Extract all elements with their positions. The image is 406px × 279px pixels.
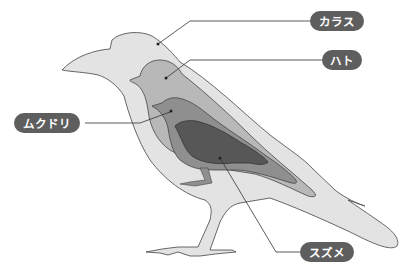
label-starling: ムクドリ — [14, 113, 80, 133]
label-sparrow: スズメ — [300, 242, 354, 262]
bird-silhouettes — [0, 0, 406, 279]
label-pigeon: ハト — [322, 50, 362, 70]
label-crow: カラス — [310, 11, 364, 31]
